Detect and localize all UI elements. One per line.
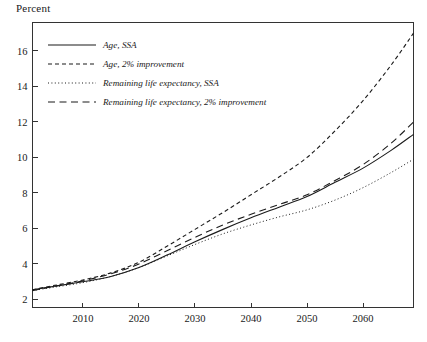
chart-figure: Percent 246810121416 2010202020302040205… (0, 0, 427, 342)
series-lines (33, 33, 414, 290)
y-tick-label: 16 (17, 46, 28, 57)
legend-label: Age, SSA (102, 40, 137, 50)
y-tick-label: 2 (22, 294, 27, 305)
y-tick-label: 14 (17, 81, 28, 92)
line-chart-plot: 246810121416 201020202030204020502060 Ag… (0, 0, 427, 342)
legend-label: Remaining life expectancy, SSA (102, 78, 219, 88)
series-line (33, 33, 414, 290)
series-line (33, 159, 414, 290)
x-tick-label: 2030 (184, 313, 205, 324)
x-tick-label: 2020 (128, 313, 149, 324)
legend-label: Age, 2% improvement (102, 59, 184, 69)
y-tick-label: 6 (22, 223, 27, 234)
x-tick-label: 2060 (353, 313, 374, 324)
plot-frame (33, 23, 414, 308)
y-tick-label: 10 (17, 152, 28, 163)
y-tick-label: 12 (17, 117, 28, 128)
series-line (33, 134, 414, 289)
y-tick-label: 4 (22, 259, 28, 270)
y-axis-ticks: 246810121416 (17, 46, 38, 306)
x-tick-label: 2040 (241, 313, 262, 324)
x-tick-label: 2010 (72, 313, 93, 324)
series-line (33, 122, 414, 291)
x-axis-ticks: 201020202030204020502060 (72, 303, 373, 324)
legend-label: Remaining life expectancy, 2% improvemen… (102, 97, 267, 107)
chart-legend: Age, SSAAge, 2% improvementRemaining lif… (48, 40, 267, 107)
y-tick-label: 8 (22, 188, 27, 199)
x-tick-label: 2050 (297, 313, 318, 324)
